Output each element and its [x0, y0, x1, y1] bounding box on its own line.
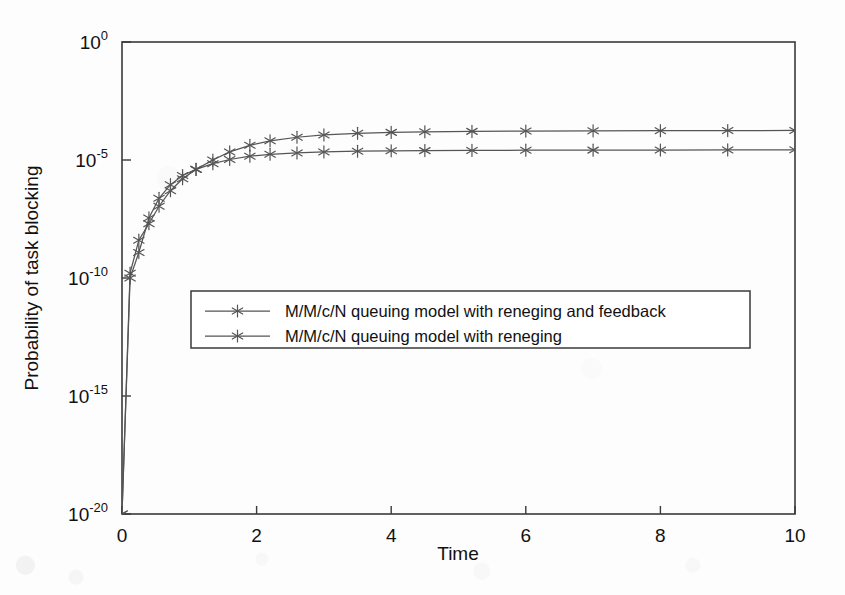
x-tick-label: 2: [251, 525, 262, 546]
x-axis-title: Time: [437, 543, 479, 564]
y-axis-tick-labels: 10010-510-1010-1510-20: [68, 28, 108, 525]
x-tick-label: 10: [784, 525, 805, 546]
x-tick-label: 4: [386, 525, 397, 546]
y-tick-label: 10-20: [68, 500, 108, 525]
plot-frame: [122, 42, 795, 514]
legend-label: M/M/c/N queuing model with reneging and …: [285, 302, 666, 320]
x-tick-label: 8: [655, 525, 666, 546]
legend[interactable]: M/M/c/N queuing model with reneging and …: [191, 291, 750, 348]
data-point-marker: [245, 139, 255, 151]
y-tick-label: 10-10: [68, 264, 108, 289]
line-chart: 0246810 10010-510-1010-1510-20 Time Prob…: [0, 0, 845, 595]
data-point-marker: [208, 158, 218, 170]
legend-label: M/M/c/N queuing model with reneging: [285, 327, 562, 345]
x-axis-ticks: [122, 506, 795, 514]
x-tick-label: 0: [117, 525, 128, 546]
figure-container: 0246810 10010-510-1010-1510-20 Time Prob…: [0, 0, 845, 595]
y-tick-label: 10-15: [68, 382, 108, 407]
y-axis-title: Probability of task blocking: [21, 166, 42, 391]
y-tick-label: 100: [80, 28, 108, 53]
y-tick-label: 10-5: [75, 146, 108, 171]
x-tick-label: 6: [521, 525, 532, 546]
data-point-marker: [191, 163, 201, 175]
